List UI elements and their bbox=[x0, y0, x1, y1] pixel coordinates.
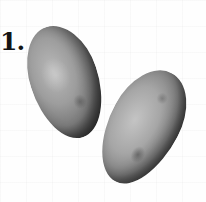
left-potato-image bbox=[15, 16, 116, 147]
right-potato-image bbox=[83, 57, 202, 198]
figure-number-label: 1. bbox=[0, 28, 24, 56]
figure-canvas: 1. bbox=[0, 0, 206, 202]
